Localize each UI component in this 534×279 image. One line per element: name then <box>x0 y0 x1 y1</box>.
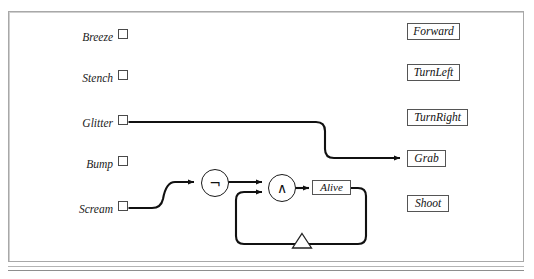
and-gate: ∧ <box>268 174 296 202</box>
wire-glitter-to-grab <box>129 122 401 158</box>
sensor-label-glitter: Glitter <box>28 118 113 130</box>
wire-scream-to-not <box>129 182 195 208</box>
sensor-checkbox-scream[interactable] <box>118 201 128 211</box>
not-gate-symbol: ¬ <box>209 176 221 190</box>
action-box-forward[interactable]: Forward <box>407 23 460 40</box>
sensor-checkbox-breeze[interactable] <box>118 29 128 39</box>
and-gate-symbol: ∧ <box>277 181 287 195</box>
sensor-label-stench: Stench <box>28 73 113 85</box>
sensor-checkbox-bump[interactable] <box>118 156 128 166</box>
sensor-checkbox-glitter[interactable] <box>118 115 128 125</box>
action-box-shoot[interactable]: Shoot <box>407 195 449 212</box>
not-gate: ¬ <box>201 169 229 197</box>
state-register-alive: Alive <box>312 180 351 195</box>
sensor-label-bump: Bump <box>28 159 113 171</box>
footer-rule-bottom <box>8 270 524 271</box>
sensor-label-breeze: Breeze <box>28 32 113 44</box>
sensor-label-scream: Scream <box>28 204 113 216</box>
figure-root: Breeze Stench Glitter Bump Scream ¬ ∧ Al… <box>0 0 534 279</box>
footer-rule-top <box>8 266 524 267</box>
action-box-turnright[interactable]: TurnRight <box>407 109 468 126</box>
action-box-grab[interactable]: Grab <box>407 150 446 167</box>
delay-element-triangle <box>293 234 312 249</box>
action-box-turnleft[interactable]: TurnLeft <box>407 64 460 81</box>
sensor-checkbox-stench[interactable] <box>118 70 128 80</box>
